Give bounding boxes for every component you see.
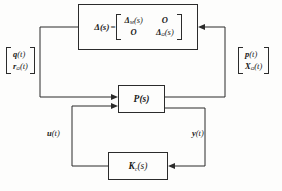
right-signal-vector: p(t) XΩ(t) [238,47,269,74]
plant-label: P(s) [134,94,150,104]
matrix-cell-0-0: ΔM(s) [124,16,142,26]
plant-block: P(s) [118,85,165,113]
left-signal-vector: q(t) rΩ(t) [6,47,35,74]
plant-to-delta-arrowhead [198,24,205,30]
delta-block: Δ(s) = ΔM(s) O O ΔΩ(s) [78,4,198,50]
delta-equals-sign: = [110,22,115,32]
delta-expression: Δ(s) = ΔM(s) O O ΔΩ(s) [94,14,182,40]
controller-block: Kc(s) [108,152,168,180]
left-vector-close-bracket [30,47,35,74]
right-vector-close-bracket [264,47,269,74]
signal-r-omega: rΩ(t) [13,61,28,72]
matrix-cell-1-1: ΔΩ(s) [156,28,174,38]
controller-to-plant-wire [72,106,113,166]
controller-label: Kc(s) [129,161,148,172]
matrix-cell-1-0: O [131,28,137,38]
left-vector-entries: q(t) rΩ(t) [11,47,30,74]
right-vector-entries: p(t) XΩ(t) [243,47,264,74]
plant-to-controller-arrowhead [168,163,175,169]
delta-lead-symbol: Δ(s) [94,22,109,32]
controller-to-plant-arrowhead [111,103,118,109]
matrix-cell-0-1: O [162,16,168,26]
matrix-right-bracket [177,14,182,40]
signal-x-omega: XΩ(t) [245,61,262,72]
control-input-label: u(t) [47,128,60,138]
measured-output-label: y(t) [192,128,204,138]
delta-to-plant-arrowhead [111,94,118,100]
delta-matrix: ΔM(s) O O ΔΩ(s) [121,14,176,40]
signal-q: q(t) [13,49,28,59]
signal-p: p(t) [245,49,262,59]
